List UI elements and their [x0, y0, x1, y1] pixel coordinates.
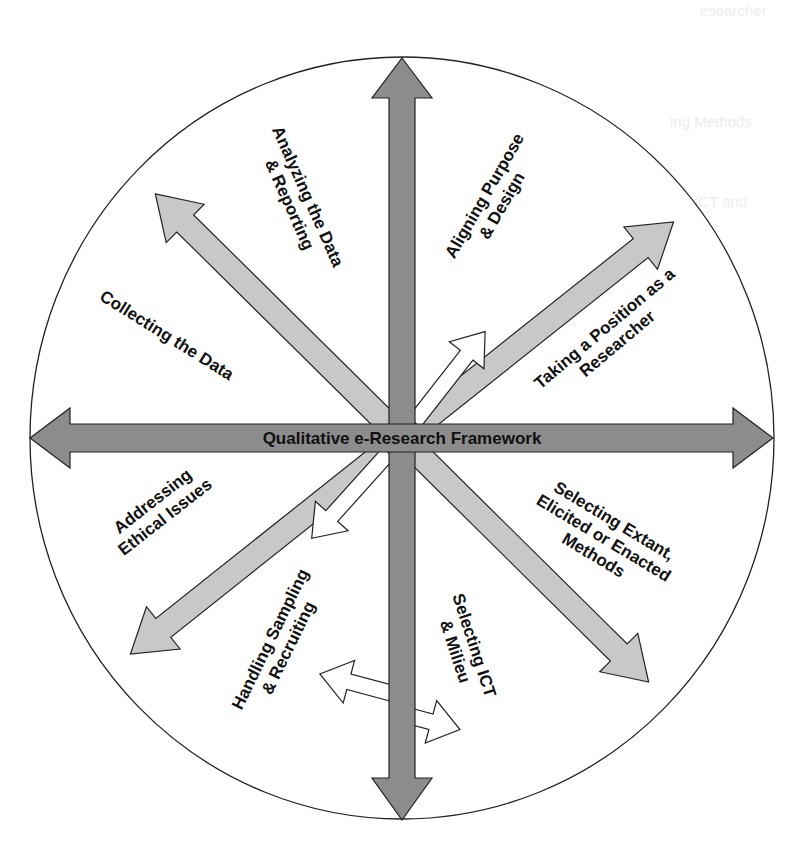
framework-diagram: Qualitative e-Research Framework Analyzi… [0, 0, 803, 852]
framework-title: Qualitative e-Research Framework [263, 429, 542, 448]
